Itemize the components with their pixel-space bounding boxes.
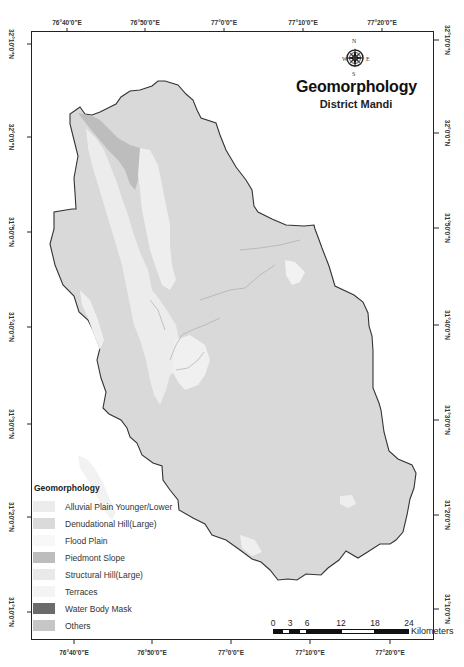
latitude-label-left-1: 32°10'0"N: [8, 29, 15, 59]
legend-item: Terraces: [33, 583, 203, 600]
longitude-label-bottom-2: 76°50'0"E: [137, 649, 167, 656]
latitude-label-right-3: 31°50'0"N: [444, 213, 451, 243]
latitude-label-left-5: 31°30'0"N: [8, 409, 15, 439]
legend-label: Others: [65, 621, 91, 631]
latitude-label-left-3: 31°50'0"N: [8, 217, 15, 247]
legend-swatch: [33, 569, 55, 580]
scale-segment: [299, 629, 308, 634]
legend-label: Denudational Hill(Large): [65, 519, 157, 529]
compass-rose: N W E S: [338, 40, 372, 78]
legend-title: Geomorphology: [34, 483, 203, 493]
north-arrow-icon: [345, 47, 365, 69]
legend-label: Piedmont Slope: [65, 553, 125, 563]
longitude-label-top-3: 77°0'0"E: [211, 19, 237, 26]
scale-tick-label: 0: [271, 618, 276, 628]
scale-tick-label: 3: [288, 618, 293, 628]
latitude-label-left-7: 31°10'0"N: [8, 597, 15, 627]
longitude-label-bottom-1: 76°40'0"E: [59, 649, 89, 656]
legend-swatch: [33, 501, 55, 512]
legend-item: Structural Hill(Large): [33, 566, 203, 583]
latitude-label-right-7: 31°10'0"N: [444, 594, 451, 624]
legend-label: Alluvial Plain Younger/Lower: [65, 502, 172, 512]
latitude-label-left-4: 31°40'0"N: [8, 312, 15, 342]
legend-item: Denudational Hill(Large): [33, 515, 203, 532]
longitude-label-bottom-5: 77°20'0"E: [375, 649, 405, 656]
longitude-label-top-4: 77°10'0"E: [288, 19, 318, 26]
longitude-label-bottom-3: 77°0'0"E: [218, 649, 244, 656]
latitude-label-left-2: 32°0'0"N: [8, 124, 15, 150]
compass-south-label: S: [352, 71, 355, 77]
legend-item: Flood Plain: [33, 532, 203, 549]
legend-item: Piedmont Slope: [33, 549, 203, 566]
map-subtitle: District Mandi: [296, 98, 416, 110]
scale-tick-label: 6: [305, 618, 310, 628]
map-title: Geomorphology: [296, 78, 416, 96]
legend-item: Water Body Mask: [33, 600, 203, 617]
scale-tick-label: 12: [336, 618, 345, 628]
scale-segment: [375, 629, 409, 634]
longitude-label-top-1: 76°40'0"E: [52, 19, 82, 26]
longitude-label-bottom-4: 77°10'0"E: [295, 649, 325, 656]
latitude-label-right-2: 32°0'0"N: [444, 120, 451, 146]
longitude-label-top-5: 77°20'0"E: [367, 19, 397, 26]
longitude-label-top-2: 76°50'0"E: [130, 19, 160, 26]
legend-item: Alluvial Plain Younger/Lower: [33, 498, 203, 515]
legend-label: Terraces: [65, 587, 98, 597]
scale-tick-label: 18: [370, 618, 379, 628]
latitude-label-right-1: 32°10'0"N: [444, 25, 451, 55]
scale-bar: 036121824 Kilometers: [268, 618, 444, 638]
scale-segment: [273, 629, 282, 634]
latitude-label-right-6: 31°20'0"N: [444, 500, 451, 530]
legend-swatch: [33, 620, 55, 631]
latitude-label-right-5: 31°30'0"N: [444, 405, 451, 435]
legend-swatch: [33, 586, 55, 597]
legend-swatch: [33, 603, 55, 614]
legend: Geomorphology Alluvial Plain Younger/Low…: [33, 483, 203, 634]
legend-swatch: [33, 535, 55, 546]
legend-swatch: [33, 552, 55, 563]
latitude-label-left-6: 31°20'0"N: [8, 502, 15, 532]
legend-label: Flood Plain: [65, 536, 108, 546]
scale-segment: [341, 629, 375, 634]
compass-north-label: N: [352, 38, 356, 44]
legend-item: Others: [33, 617, 203, 634]
latitude-label-right-4: 31°40'0"N: [444, 310, 451, 340]
scale-segment: [282, 629, 291, 634]
compass-east-label: E: [366, 56, 370, 62]
scale-segment: [307, 629, 341, 634]
scale-segment: [290, 629, 299, 634]
legend-swatch: [33, 518, 55, 529]
legend-label: Structural Hill(Large): [65, 570, 143, 580]
scale-unit-label: Kilometers: [411, 626, 454, 636]
legend-label: Water Body Mask: [65, 604, 132, 614]
